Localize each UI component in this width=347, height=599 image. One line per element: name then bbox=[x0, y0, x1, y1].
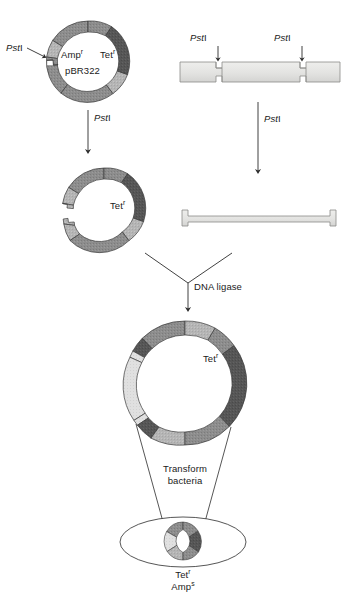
transform-label-line1: Transform bbox=[148, 463, 222, 475]
pstI-pointer-parent bbox=[27, 48, 45, 57]
recombinant-plasmid-group bbox=[123, 321, 247, 445]
recombinant-segment-top bbox=[142, 321, 185, 349]
parent-plasmid-ring bbox=[46, 21, 129, 102]
donor-dna-group bbox=[180, 46, 340, 82]
dna-ligase-label: DNA ligase bbox=[194, 281, 242, 293]
cloning-diagram bbox=[0, 0, 347, 599]
tet-resistance-label-cut-plasmid: Tetr bbox=[110, 200, 125, 212]
plasmid-segment-amp-upper bbox=[53, 21, 88, 47]
transform-label-line2: bacteria bbox=[148, 475, 222, 487]
amp-resistance-label-parent: Ampr bbox=[61, 49, 83, 61]
transform-bacteria-label: Transform bacteria bbox=[148, 463, 222, 487]
recombinant-insert-segment bbox=[123, 357, 145, 420]
phenotype-amp: Amps bbox=[152, 581, 214, 593]
pstI-label-digest-plasmid: PstI bbox=[94, 112, 111, 124]
cut-plasmid-segment-bottom bbox=[70, 232, 129, 253]
pstI-label-donor-left: PstI bbox=[190, 32, 207, 44]
donor-dna-bar bbox=[180, 62, 340, 82]
phenotype-tet: Tetr bbox=[152, 569, 214, 581]
plasmid-name-label: pBR322 bbox=[65, 65, 100, 77]
pstI-label-digest-donor: PstI bbox=[264, 113, 281, 125]
recombinant-segment-bottom-right bbox=[185, 416, 230, 445]
parent-plasmid-group bbox=[27, 21, 130, 102]
ligation-arrow-branch-right bbox=[188, 253, 232, 283]
cut-plasmid-segment-tet bbox=[121, 174, 145, 222]
tet-resistance-label-recombinant: Tetr bbox=[203, 353, 218, 365]
cut-plasmid-segment-top-left bbox=[69, 168, 104, 194]
cut-plasmid-group bbox=[63, 168, 146, 253]
ligation-arrow-branch-left bbox=[145, 253, 188, 283]
recombinant-segment-right-tet bbox=[220, 346, 247, 427]
transformed-bacterium-group bbox=[120, 517, 246, 567]
excised-fragment-bar bbox=[182, 210, 336, 226]
plasmid-segment-bottom bbox=[61, 85, 113, 103]
pstI-label-donor-right: PstI bbox=[274, 32, 291, 44]
pstI-label-parent-plasmid: PstI bbox=[6, 42, 23, 54]
pstI-notch-fill-parent bbox=[47, 61, 53, 66]
tet-resistance-label-parent: Tetr bbox=[100, 49, 115, 61]
transformed-phenotype-label: Tetr Amps bbox=[152, 569, 214, 593]
